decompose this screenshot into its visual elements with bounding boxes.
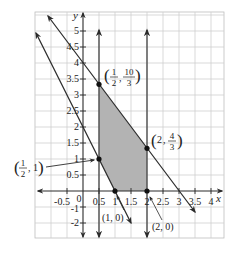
label-vertex-two-four-thirds: ( 2 , 4 3 ) xyxy=(151,131,183,152)
svg-text:3.5: 3.5 xyxy=(67,73,80,84)
svg-text:): ) xyxy=(135,66,141,85)
label-vertex-half-ten-thirds: ( 1 2 , 10 3 ) xyxy=(104,66,141,88)
svg-text:1: 1 xyxy=(112,67,117,77)
label-vertex-two-zero: (2, 0) xyxy=(152,221,174,233)
svg-text:-1: -1 xyxy=(71,203,79,214)
svg-text:(: ( xyxy=(104,66,110,85)
vertex-one-zero xyxy=(112,188,117,193)
svg-text:2.5: 2.5 xyxy=(157,196,170,207)
svg-text:0.5: 0.5 xyxy=(93,196,106,207)
svg-text:1: 1 xyxy=(21,158,26,168)
svg-text:0.5: 0.5 xyxy=(67,169,80,180)
graph: y x 5 4.5 4 3.5 3 2.5 2 1.5 1 0.5 -1 -2 … xyxy=(0,0,234,253)
svg-text:): ) xyxy=(177,131,183,150)
svg-text:3: 3 xyxy=(177,196,182,207)
svg-text:2: 2 xyxy=(21,169,26,179)
svg-text:1.5: 1.5 xyxy=(125,196,138,207)
svg-text:,: , xyxy=(163,134,166,145)
label-vertex-half-one: ( 1 2 , 1 ) xyxy=(14,158,94,179)
svg-text:10: 10 xyxy=(125,67,135,77)
svg-text:): ) xyxy=(38,158,44,177)
svg-text:0: 0 xyxy=(77,193,82,204)
vertex-two-zero xyxy=(144,188,149,193)
svg-text:,: , xyxy=(119,72,122,83)
svg-text:-2: -2 xyxy=(71,217,79,228)
svg-text:,: , xyxy=(28,162,31,173)
vertex-two-four-thirds xyxy=(144,146,149,151)
svg-text:3: 3 xyxy=(74,89,79,100)
label-vertex-one-zero: (1, 0) xyxy=(102,212,124,224)
svg-text:4: 4 xyxy=(209,196,214,207)
pointer-one-zero xyxy=(117,196,124,210)
svg-text:2: 2 xyxy=(157,134,162,145)
svg-text:3: 3 xyxy=(170,142,175,152)
svg-text:3.5: 3.5 xyxy=(189,196,202,207)
svg-text:4: 4 xyxy=(170,131,175,141)
y-axis-label: y xyxy=(72,9,78,21)
x-axis-label: x xyxy=(215,192,221,204)
svg-text:-0.5: -0.5 xyxy=(54,196,70,207)
svg-text:(: ( xyxy=(14,158,20,177)
vertex-half-ten-thirds xyxy=(96,82,101,87)
svg-text:2: 2 xyxy=(112,78,117,88)
svg-text:4.5: 4.5 xyxy=(67,41,80,52)
svg-text:4: 4 xyxy=(74,57,79,68)
vertex-half-one xyxy=(96,156,101,161)
svg-text:2: 2 xyxy=(74,121,79,132)
svg-text:1.5: 1.5 xyxy=(67,137,80,148)
svg-text:1: 1 xyxy=(113,196,118,207)
svg-text:5: 5 xyxy=(74,25,79,36)
svg-text:2: 2 xyxy=(145,196,150,207)
svg-text:3: 3 xyxy=(127,78,132,88)
svg-text:2.5: 2.5 xyxy=(67,105,80,116)
